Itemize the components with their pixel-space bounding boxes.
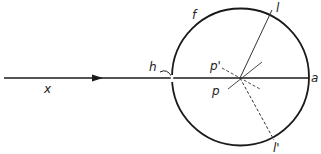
arrow-head-icon [92, 75, 103, 82]
label-f: f [192, 8, 198, 22]
label-h: h [149, 60, 157, 74]
label-x: x [43, 82, 52, 96]
optics-diagram: x h f l p' p a l' [0, 0, 321, 154]
line-p [228, 62, 262, 89]
label-a: a [311, 71, 318, 85]
label-p-prime: p' [209, 59, 221, 73]
label-p: p [211, 84, 220, 98]
label-l: l [276, 1, 280, 15]
label-l-prime: l' [273, 141, 280, 154]
line-l-prime [240, 78, 274, 140]
hole-h-pointer [160, 71, 172, 77]
line-l [240, 10, 272, 78]
